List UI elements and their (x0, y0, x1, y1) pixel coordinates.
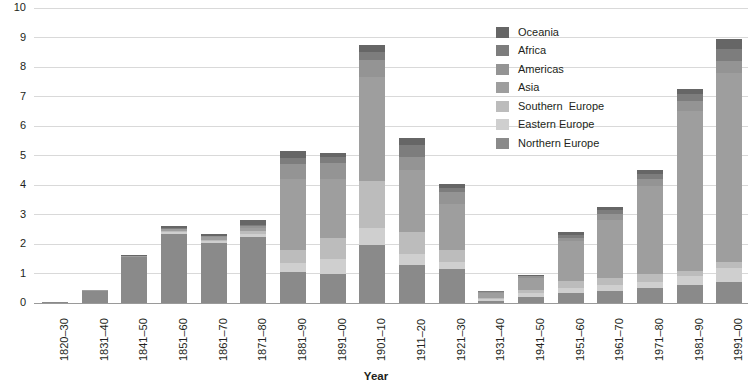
bar-segment-northern-europe (82, 291, 108, 303)
bar-segment-southern-europe (439, 250, 465, 262)
bar-segment-asia (439, 204, 465, 250)
bar-segment-asia (597, 220, 623, 278)
plot-area (34, 8, 748, 303)
x-axis-tick-label: 1820–30 (59, 318, 70, 361)
bar-1831–40[interactable] (82, 290, 108, 303)
y-axis-tick-label: 5 (0, 150, 26, 161)
bar-segment-africa (716, 49, 742, 61)
bar-segment-asia (359, 77, 385, 180)
bar-segment-americas (716, 61, 742, 73)
x-axis-tick-label: 1941–50 (535, 318, 546, 361)
bar-1921–30[interactable] (439, 184, 465, 303)
bar-segment-americas (439, 192, 465, 204)
bar-segment-northern-europe (121, 257, 147, 303)
x-axis-tick-label: 1981–90 (694, 318, 705, 361)
x-axis-tick-label: 1871–80 (257, 318, 268, 361)
bar-segment-northern-europe (399, 265, 425, 303)
bar-1981–90[interactable] (677, 89, 703, 303)
bar-segment-northern-europe (359, 245, 385, 303)
bar-1901–10[interactable] (359, 45, 385, 303)
legend-item-northern-europe[interactable]: Northern Europe (496, 134, 604, 153)
y-axis-tick-label: 9 (0, 32, 26, 43)
legend-item-africa[interactable]: Africa (496, 42, 604, 61)
x-axis-tick-label: 1861–70 (218, 318, 229, 361)
bar-segment-northern-europe (280, 272, 306, 303)
bar-1871–80[interactable] (240, 220, 266, 303)
bar-segment-oceania (716, 39, 742, 49)
bar-segment-northern-europe (558, 293, 584, 303)
bar-1931–40[interactable] (478, 291, 504, 303)
bar-segment-africa (399, 145, 425, 157)
x-axis-tick-label: 1951–60 (575, 318, 586, 361)
bar-segment-asia (558, 241, 584, 281)
bar-segment-americas (280, 164, 306, 179)
y-axis-tick-label: 2 (0, 238, 26, 249)
bar-segment-asia (399, 170, 425, 232)
x-axis-tick-label: 1841–50 (138, 318, 149, 361)
legend-item-label: Oceania (518, 27, 559, 38)
bar-segment-asia (280, 179, 306, 250)
bar-segment-northern-europe (716, 282, 742, 303)
bar-segment-eastern-europe (399, 254, 425, 264)
bar-segment-americas (637, 179, 663, 186)
bar-segment-africa (677, 94, 703, 101)
legend-item-label: Africa (518, 45, 546, 56)
bar-segment-northern-europe (439, 269, 465, 303)
x-axis-title: Year (0, 370, 752, 382)
legend-swatch-icon (496, 101, 509, 112)
x-axis-tick-labels: 1820–301831–401841–501851–601861–701871–… (34, 305, 748, 367)
bar-segment-americas (399, 157, 425, 170)
x-axis-tick-label: 1881–90 (297, 318, 308, 361)
bar-1971–80[interactable] (637, 170, 663, 303)
legend-item-label: Eastern Europe (518, 119, 594, 130)
bar-1891–00[interactable] (320, 153, 346, 303)
x-axis-tick-label: 1921–30 (456, 318, 467, 361)
bar-segment-northern-europe (320, 274, 346, 304)
bar-1820–30[interactable] (42, 302, 68, 303)
bar-segment-asia (320, 179, 346, 238)
bar-segment-southern-europe (399, 232, 425, 254)
bar-segment-eastern-europe (280, 263, 306, 272)
bar-1861–70[interactable] (201, 234, 227, 303)
legend-item-oceania[interactable]: Oceania (496, 23, 604, 42)
legend-item-southern-europe[interactable]: Southern Europe (496, 97, 604, 116)
bar-segment-northern-europe (478, 301, 504, 303)
bar-segment-eastern-europe (716, 268, 742, 283)
legend-item-americas[interactable]: Americas (496, 60, 604, 79)
bar-1851–60[interactable] (161, 226, 187, 303)
bar-segment-southern-europe (359, 181, 385, 228)
legend-item-label: Americas (518, 64, 564, 75)
legend-item-eastern-europe[interactable]: Eastern Europe (496, 116, 604, 135)
bar-1991–00[interactable] (716, 39, 742, 303)
bar-segment-americas (320, 163, 346, 179)
bar-1881–90[interactable] (280, 151, 306, 303)
bar-segment-southern-europe (637, 274, 663, 281)
bar-segment-northern-europe (597, 291, 623, 303)
bar-1961–70[interactable] (597, 207, 623, 303)
legend-swatch-icon (496, 27, 509, 38)
bar-segment-asia (677, 111, 703, 270)
bar-segment-oceania (280, 151, 306, 158)
legend-swatch-icon (496, 64, 509, 75)
bar-segment-asia (716, 73, 742, 262)
bar-1841–50[interactable] (121, 255, 147, 303)
y-axis-tick-label: 0 (0, 297, 26, 308)
y-axis-tick-label: 4 (0, 179, 26, 190)
legend-item-label: Asia (518, 82, 539, 93)
x-axis-tick-label: 1971–80 (654, 318, 665, 361)
legend-swatch-icon (496, 138, 509, 149)
bar-segment-northern-europe (518, 297, 544, 303)
legend: OceaniaAfricaAmericasAsiaSouthern Europe… (496, 23, 604, 153)
bar-1941–50[interactable] (518, 275, 544, 303)
bar-segment-oceania (359, 45, 385, 52)
bar-segment-northern-europe (201, 243, 227, 303)
x-axis-tick-label: 1901–10 (376, 318, 387, 361)
y-axis-tick-label: 10 (0, 2, 26, 13)
bar-1951–60[interactable] (558, 232, 584, 303)
legend-item-asia[interactable]: Asia (496, 79, 604, 98)
bar-segment-northern-europe (677, 285, 703, 303)
bar-segment-eastern-europe (320, 259, 346, 274)
legend-item-label: Southern Europe (518, 101, 604, 112)
bar-1911–20[interactable] (399, 138, 425, 303)
bar-segment-asia (518, 278, 544, 290)
